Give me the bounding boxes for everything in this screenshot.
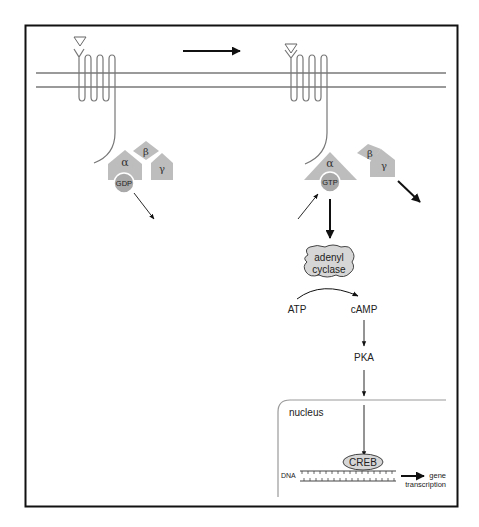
dna-label: DNA: [281, 472, 296, 479]
camp-label: cAMP: [351, 304, 378, 315]
pka-label: PKA: [354, 352, 374, 363]
output-label-line2: transcription: [405, 480, 446, 489]
nucleus-label: nucleus: [289, 407, 323, 418]
adenyl-cyclase: adenyl cyclase: [304, 245, 354, 277]
enzyme-label-line1: adenyl: [314, 252, 343, 263]
gtp-label: GTP: [322, 178, 337, 187]
atp-label: ATP: [288, 304, 307, 315]
beta-label-right: β: [367, 148, 373, 159]
output-label-line1: gene: [429, 471, 446, 480]
diagram-frame: [26, 26, 458, 507]
gpcr-signaling-diagram: α β γ GDP α GTP β γ adenyl cyclase AT: [0, 0, 479, 527]
enzyme-label-line2: cyclase: [312, 264, 346, 275]
alpha-label-right: α: [326, 157, 334, 170]
beta-label-left: β: [143, 146, 149, 157]
gamma-label-left: γ: [159, 163, 165, 174]
gamma-label-right: γ: [381, 160, 387, 171]
gdp-label: GDP: [116, 179, 132, 188]
creb-label: CREB: [349, 457, 377, 468]
alpha-label-left: α: [121, 156, 129, 169]
